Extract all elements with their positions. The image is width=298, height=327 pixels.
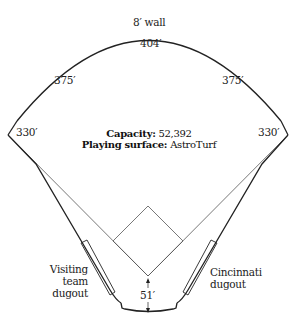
capacity-row: Capacity: 52,392 (0, 128, 298, 139)
capacity-value: 52,392 (158, 128, 191, 139)
surface-row: Playing surface: AstroTurf (0, 139, 298, 150)
stadium-info: Capacity: 52,392 Playing surface: AstroT… (0, 128, 298, 150)
visiting-label-line1: Visiting (48, 263, 88, 275)
visiting-dugout-label: Visiting team dugout (48, 263, 88, 299)
wall-height-label: 8′ wall (133, 17, 165, 28)
backstop-distance: 51′ (140, 290, 155, 301)
ballpark-diagram: 8′ wall 404′ 375′ 375′ 330′ 330′ Capacit… (0, 0, 298, 327)
arrow-up-icon (146, 278, 150, 283)
home-label-line2: dugout (210, 278, 262, 290)
left-center-distance: 375′ (54, 75, 75, 86)
capacity-label: Capacity: (106, 128, 155, 139)
surface-value: AstroTurf (170, 139, 216, 150)
arrow-down-icon (146, 308, 150, 313)
home-label-line1: Cincinnati (210, 266, 262, 278)
visiting-label-line2: team (48, 275, 88, 287)
infield-diamond (113, 206, 183, 276)
surface-label: Playing surface: (82, 139, 167, 150)
right-center-distance: 375′ (222, 75, 243, 86)
center-field-distance: 404′ (140, 38, 161, 49)
cincinnati-dugout-label: Cincinnati dugout (210, 266, 262, 290)
visiting-label-line3: dugout (48, 287, 88, 299)
